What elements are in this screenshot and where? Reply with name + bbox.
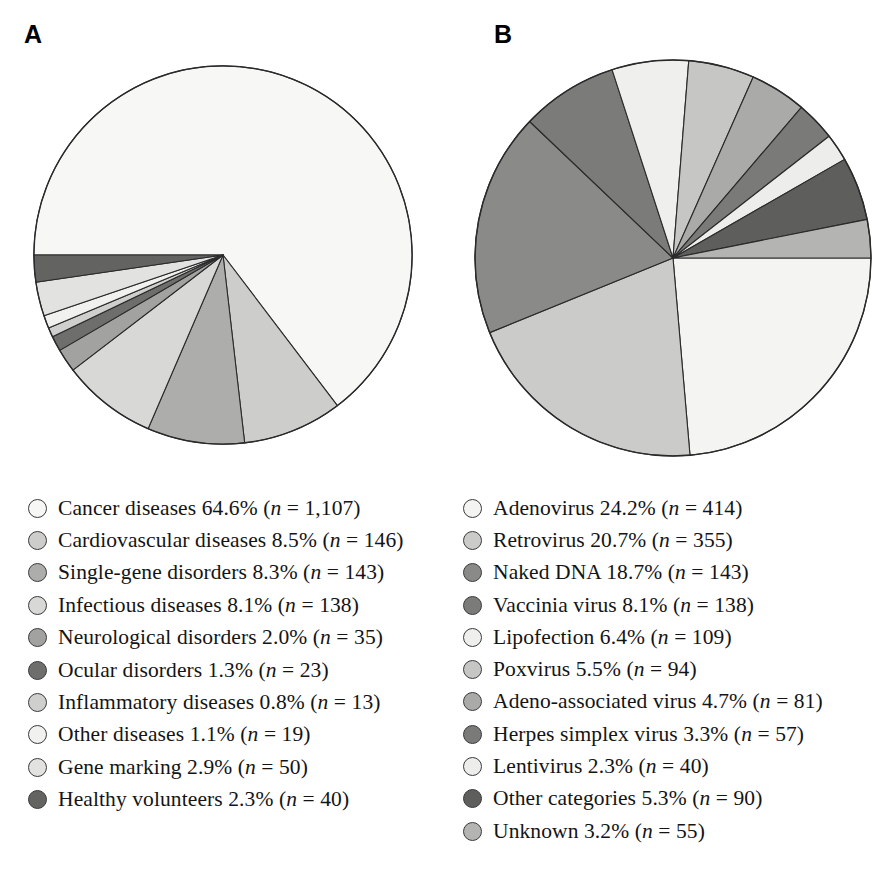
legend-item: Infectious diseases 8.1% (n = 138) — [28, 589, 438, 621]
panel-a: A Cancer diseases 64.6% (n = 1,107)Cardi… — [0, 0, 441, 883]
legend-swatch-icon — [28, 693, 47, 712]
legend-swatch-icon — [463, 531, 482, 550]
legend-swatch-icon — [28, 628, 47, 647]
pie-a-svg — [30, 62, 416, 448]
legend-label: Naked DNA 18.7% (n = 143) — [493, 561, 749, 584]
legend-item: Retrovirus 20.7% (n = 355) — [463, 524, 881, 556]
panel-b-label: B — [494, 22, 512, 47]
legend-swatch-icon — [463, 596, 482, 615]
legend-label: Retrovirus 20.7% (n = 355) — [493, 529, 733, 552]
legend-swatch-icon — [28, 725, 47, 744]
legend-label: Adeno-associated virus 4.7% (n = 81) — [493, 690, 823, 713]
legend-label: Cardiovascular diseases 8.5% (n = 146) — [58, 529, 404, 552]
legend-label: Vaccinia virus 8.1% (n = 138) — [493, 594, 754, 617]
legend-swatch-icon — [463, 628, 482, 647]
legend-label: Other categories 5.3% (n = 90) — [493, 787, 762, 810]
legend-item: Lipofection 6.4% (n = 109) — [463, 621, 881, 653]
legend-label: Herpes simplex virus 3.3% (n = 57) — [493, 723, 804, 746]
legend-swatch-icon — [28, 563, 47, 582]
legend-item: Vaccinia virus 8.1% (n = 138) — [463, 589, 881, 621]
legend-label: Ocular disorders 1.3% (n = 23) — [58, 659, 329, 682]
legend-item: Gene marking 2.9% (n = 50) — [28, 751, 438, 783]
legend-swatch-icon — [463, 725, 482, 744]
legend-item: Inflammatory diseases 0.8% (n = 13) — [28, 686, 438, 718]
legend-swatch-icon — [28, 499, 47, 518]
legend-swatch-icon — [463, 757, 482, 776]
legend-swatch-icon — [463, 499, 482, 518]
legend-label: Gene marking 2.9% (n = 50) — [58, 756, 308, 779]
legend-label: Poxvirus 5.5% (n = 94) — [493, 658, 697, 681]
legend-label: Unknown 3.2% (n = 55) — [493, 820, 705, 843]
pie-b-svg — [471, 56, 875, 460]
panel-b: B Adenovirus 24.2% (n = 414)Retrovirus 2… — [442, 0, 883, 883]
legend-item: Cardiovascular diseases 8.5% (n = 146) — [28, 524, 438, 556]
legend-label: Healthy volunteers 2.3% (n = 40) — [58, 788, 349, 811]
legend-b: Adenovirus 24.2% (n = 414)Retrovirus 20.… — [463, 492, 881, 847]
legend-swatch-icon — [463, 822, 482, 841]
legend-label: Adenovirus 24.2% (n = 414) — [493, 497, 742, 520]
legend-item: Single-gene disorders 8.3% (n = 143) — [28, 557, 438, 589]
legend-label: Lipofection 6.4% (n = 109) — [493, 626, 732, 649]
legend-item: Adenovirus 24.2% (n = 414) — [463, 492, 881, 524]
legend-label: Single-gene disorders 8.3% (n = 143) — [58, 561, 384, 584]
legend-swatch-icon — [28, 758, 47, 777]
legend-swatch-icon — [28, 596, 47, 615]
legend-swatch-icon — [463, 692, 482, 711]
legend-item: Other diseases 1.1% (n = 19) — [28, 719, 438, 751]
legend-item: Unknown 3.2% (n = 55) — [463, 815, 881, 847]
legend-swatch-icon — [463, 789, 482, 808]
legend-item: Healthy volunteers 2.3% (n = 40) — [28, 784, 438, 816]
legend-item: Poxvirus 5.5% (n = 94) — [463, 653, 881, 685]
legend-item: Herpes simplex virus 3.3% (n = 57) — [463, 718, 881, 750]
legend-item: Naked DNA 18.7% (n = 143) — [463, 557, 881, 589]
legend-item: Lentivirus 2.3% (n = 40) — [463, 750, 881, 782]
legend-swatch-icon — [463, 563, 482, 582]
legend-item: Ocular disorders 1.3% (n = 23) — [28, 654, 438, 686]
legend-swatch-icon — [28, 661, 47, 680]
legend-swatch-icon — [28, 531, 47, 550]
legend-item: Neurological disorders 2.0% (n = 35) — [28, 622, 438, 654]
panel-a-label: A — [24, 22, 42, 47]
legend-item: Adeno-associated virus 4.7% (n = 81) — [463, 686, 881, 718]
pie-chart-a — [30, 62, 416, 448]
legend-label: Infectious diseases 8.1% (n = 138) — [58, 594, 359, 617]
legend-swatch-icon — [28, 790, 47, 809]
legend-item: Cancer diseases 64.6% (n = 1,107) — [28, 492, 438, 524]
pie-slice — [673, 258, 871, 455]
pie-chart-b — [471, 56, 875, 460]
legend-label: Cancer diseases 64.6% (n = 1,107) — [58, 497, 361, 520]
legend-label: Neurological disorders 2.0% (n = 35) — [58, 626, 383, 649]
legend-label: Other diseases 1.1% (n = 19) — [58, 723, 311, 746]
legend-swatch-icon — [463, 660, 482, 679]
legend-item: Other categories 5.3% (n = 90) — [463, 783, 881, 815]
legend-label: Lentivirus 2.3% (n = 40) — [493, 755, 709, 778]
legend-a: Cancer diseases 64.6% (n = 1,107)Cardiov… — [28, 492, 438, 816]
legend-label: Inflammatory diseases 0.8% (n = 13) — [58, 691, 381, 714]
